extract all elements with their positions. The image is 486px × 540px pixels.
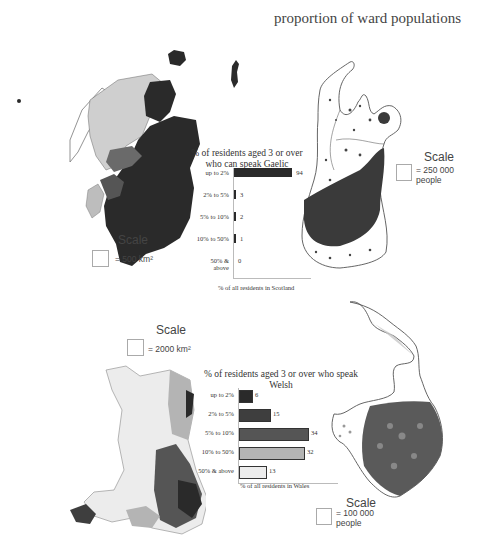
bar [234, 212, 236, 221]
wales-cartogram-scale-value-line2: people [336, 518, 374, 528]
wales-map-scale-value: = 2000 km² [148, 344, 191, 354]
bar [239, 466, 267, 479]
bar-category-label: 2% to 5% [196, 410, 234, 417]
bar-category-label: up to 2% [196, 169, 229, 176]
bar [239, 390, 253, 403]
bar-value-label: 2 [240, 213, 243, 220]
gaelic-chart-title-line1: % of residents aged 3 or over [188, 148, 306, 159]
bar-category-label: 10% to 50% [196, 235, 229, 242]
wales-map [66, 360, 206, 540]
wales-cartogram-scale-value-line1: = 100 000 [336, 508, 374, 518]
welsh-bar-chart: up to 2%62% to 5%155% to 10%3410% to 50%… [196, 388, 336, 488]
bar-value-label: 1 [240, 235, 243, 242]
bar [239, 428, 309, 441]
bar [234, 234, 236, 243]
welsh-chart-xlabel: % of all residents in Wales [240, 482, 309, 489]
bar-value-label: 13 [269, 467, 276, 474]
bar [234, 190, 236, 199]
scotland-map-scale-label: Scale [118, 233, 148, 247]
bar-category-label: 50% & above [196, 467, 234, 474]
bar-value-label: 6 [255, 391, 258, 398]
bar [239, 447, 305, 460]
bar-category-label: 5% to 10% [196, 213, 229, 220]
scotland-map-scale-value: = 500 km² [115, 254, 153, 264]
scotland-map-scale-box [92, 250, 109, 267]
bar-value-label: 32 [307, 448, 314, 455]
figure-title: proportion of ward populations [274, 10, 461, 27]
bar-category-label: up to 2% [196, 391, 234, 398]
wales-map-scale-label: Scale [156, 323, 186, 337]
gaelic-chart-xlabel: % of all residents in Scotland [218, 284, 294, 291]
bar [234, 168, 292, 177]
bar-category-label: 2% to 5% [196, 191, 229, 198]
bar [239, 409, 271, 422]
wales-cartogram [330, 296, 480, 506]
scotland-cartogram-scale-label: Scale [424, 150, 454, 164]
chart-axis [233, 168, 234, 278]
scotland-cartogram-scale-value-line1: = 250 000 [416, 165, 454, 175]
gaelic-chart-title: % of residents aged 3 or over who can sp… [188, 148, 306, 170]
bar-category-label: 50% & above [196, 257, 229, 271]
scotland-cartogram-scale-box [396, 164, 412, 181]
scotland-cartogram-scale-value: = 250 000 people [416, 165, 454, 185]
bar-value-label: 34 [311, 429, 318, 436]
wales-cartogram-scale-value: = 100 000 people [336, 508, 374, 528]
scotland-cartogram-scale-value-line2: people [416, 175, 454, 185]
bar-value-label: 0 [238, 257, 241, 264]
wales-cartogram-scale-box [316, 508, 332, 525]
bar-category-label: 5% to 10% [196, 429, 234, 436]
gaelic-bar-chart: up to 2%942% to 5%35% to 10%210% to 50%1… [196, 168, 316, 280]
bar-value-label: 15 [273, 410, 280, 417]
bar-category-label: 10% to 50% [196, 448, 234, 455]
bar-value-label: 3 [240, 191, 243, 198]
wales-map-scale-box [127, 339, 144, 356]
